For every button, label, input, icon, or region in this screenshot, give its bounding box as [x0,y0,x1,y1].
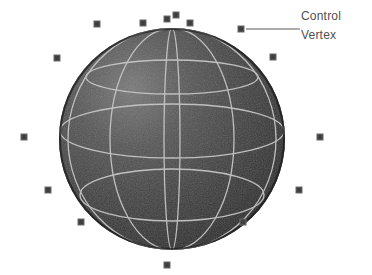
cv-upper-left[interactable] [54,55,60,61]
cv-top-center[interactable] [164,16,170,22]
cv-bottom-right[interactable] [240,219,246,225]
cv-bottom-left[interactable] [78,219,84,225]
annotation-label-line2: Vertex [301,26,336,45]
cv-top-right[interactable] [187,20,193,26]
cv-lower-right[interactable] [296,187,302,193]
annotation-label-line1: Control [301,7,341,26]
cv-bottom-center[interactable] [164,262,170,268]
cv-lower-left[interactable] [45,187,51,193]
cv-upper-right[interactable] [270,54,276,60]
cv-mid-left[interactable] [21,134,27,140]
cv-annotated[interactable] [238,26,244,32]
cv-top-left-far[interactable] [94,21,100,27]
cv-top-apex[interactable] [173,12,179,18]
cv-mid-right[interactable] [317,134,323,140]
cv-top-left[interactable] [140,20,146,26]
viewport: Control Vertex [0,0,372,275]
